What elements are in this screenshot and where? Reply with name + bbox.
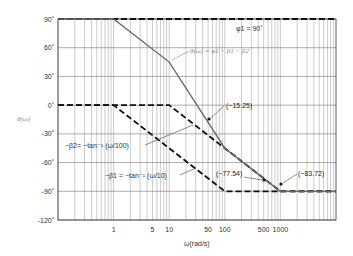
x-axis-label: ω(rad/s)	[184, 240, 210, 248]
x-tick-label: 10	[165, 226, 173, 233]
beta2-label: −β2= −tan⁻¹ (ω/100)	[65, 142, 129, 150]
ann3-arrow	[283, 174, 297, 183]
annotation-15-25: (−15.25)	[226, 102, 252, 110]
point-77-54	[262, 178, 265, 181]
annotation-83-72: (−83.72)	[298, 170, 324, 178]
x-tick-label: 500	[258, 226, 270, 233]
beta1-label: −β1 = −tan⁻¹ (ω/10)	[105, 172, 167, 180]
x-tick-label: 100	[219, 226, 231, 233]
y-tick-label: 90˚	[44, 16, 54, 23]
point-15-25	[207, 117, 210, 120]
y-tick-label: -120˚	[38, 217, 54, 224]
y-axis-label: θ(ω)	[17, 115, 31, 123]
theta-label: θ(ω) = φ1 − β1 − β2	[190, 47, 250, 55]
theta-arrow	[172, 51, 189, 60]
x-tick-label: 1	[112, 226, 116, 233]
y-tick-label: 60˚	[44, 44, 54, 51]
axes: 90˚60˚30˚0˚-30˚-60˚-90˚-120˚151050100500…	[38, 16, 336, 234]
y-tick-label: -30˚	[42, 130, 54, 137]
annotation-77-54: (−77.54)	[216, 170, 242, 178]
point-83-72	[279, 182, 282, 185]
bode-phase-chart: 90˚60˚30˚0˚-30˚-60˚-90˚-120˚151050100500…	[0, 0, 353, 256]
x-tick-label: 1000	[273, 226, 289, 233]
x-tick-label: 50	[204, 226, 212, 233]
x-tick-label: 5	[151, 226, 155, 233]
phi1-label: φ1 = 90˚	[236, 25, 263, 33]
beta1-arrow	[180, 168, 196, 175]
y-tick-label: -60˚	[42, 159, 54, 166]
y-tick-label: 0˚	[48, 102, 54, 109]
y-tick-label: -90˚	[42, 188, 54, 195]
ann2-arrow	[244, 177, 262, 180]
y-tick-label: 30˚	[44, 73, 54, 80]
